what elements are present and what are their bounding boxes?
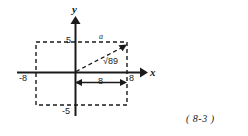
dimension-arrowhead-right [120,79,127,86]
dimension-label: 8 [98,77,103,86]
figure-caption: ( 8-3 ) [186,113,215,124]
vector-name-label: a [99,33,103,41]
y-tick-positive-label: 5 [66,36,71,45]
x-tick-negative-label: -8 [19,74,27,83]
x-tick-positive-label: 8 [129,74,134,83]
x-axis-label: x [150,67,156,78]
figure-page: y x 5 -5 -8 8 a √89 8 ( 8-3 ) [0,0,248,136]
vector-a-arrowhead [119,45,128,52]
y-axis-label: y [72,4,77,15]
vector-magnitude-label: √89 [103,57,118,66]
radicand: 89 [108,57,118,66]
y-axis-arrowhead [71,16,81,24]
y-tick-negative-label: -5 [62,107,70,116]
x-axis-arrowhead [140,68,148,78]
